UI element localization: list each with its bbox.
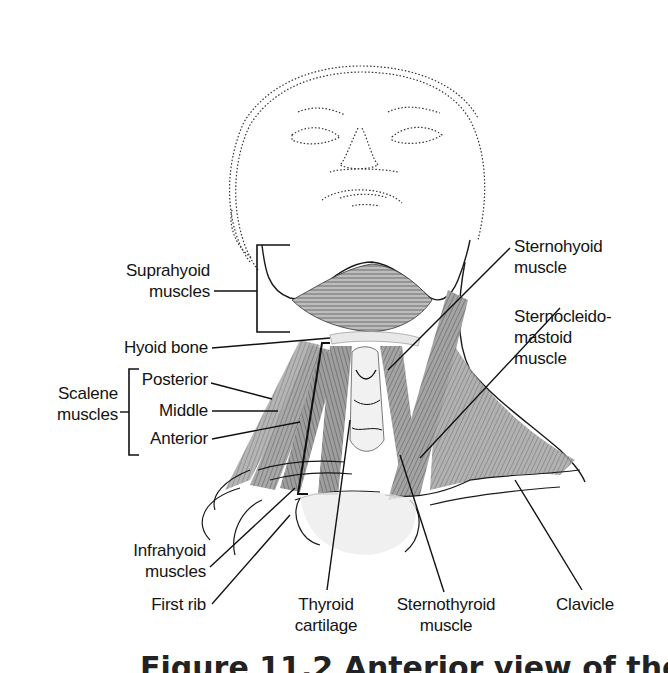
label-scalene-muscles: Scalene muscles xyxy=(20,383,118,425)
label-line: muscles xyxy=(90,561,206,582)
suprahyoid-muscle xyxy=(292,264,432,332)
label-text: Posterior xyxy=(142,370,208,389)
label-text: Hyoid bone xyxy=(124,338,208,357)
label-text: Anterior xyxy=(150,429,208,448)
label-sternocleidomastoid-muscle: Sternocleido- mastoid muscle xyxy=(514,306,654,369)
label-first-rib: First rib xyxy=(100,594,206,615)
label-scalene-anterior: Anterior xyxy=(120,428,208,449)
label-clavicle: Clavicle xyxy=(540,594,630,615)
label-line: Sternohyoid xyxy=(514,236,634,257)
label-line: muscle xyxy=(514,348,654,369)
sternum-shade xyxy=(300,492,416,555)
label-infrahyoid-muscles: Infrahyoid muscles xyxy=(90,540,206,582)
label-line: Infrahyoid xyxy=(90,540,206,561)
label-line: Sternothyroid xyxy=(386,594,506,615)
head-outline xyxy=(230,66,485,270)
label-line: cartilage xyxy=(276,615,376,636)
label-sternohyoid-muscle: Sternohyoid muscle xyxy=(514,236,634,278)
label-line: Scalene xyxy=(20,383,118,404)
anatomy-figure: Suprahyoid muscles Hyoid bone Scalene mu… xyxy=(0,0,668,673)
label-line: Suprahyoid xyxy=(90,260,210,281)
label-suprahyoid-muscles: Suprahyoid muscles xyxy=(90,260,210,302)
label-line: muscles xyxy=(90,281,210,302)
label-line: muscle xyxy=(514,257,634,278)
label-line: Thyroid xyxy=(276,594,376,615)
thyroid-cartilage-shape xyxy=(350,347,384,452)
label-thyroid-cartilage: Thyroid cartilage xyxy=(276,594,376,636)
label-text: Middle xyxy=(159,401,208,420)
label-line: mastoid xyxy=(514,327,654,348)
label-text: Clavicle xyxy=(556,595,614,614)
label-sternothyroid-muscle: Sternothyroid muscle xyxy=(386,594,506,636)
label-line: Sternocleido- xyxy=(514,306,654,327)
label-scalene-middle: Middle xyxy=(120,400,208,421)
suprahyoid-bracket xyxy=(257,245,290,332)
label-text: First rib xyxy=(151,595,206,614)
label-scalene-posterior: Posterior xyxy=(120,369,208,390)
label-line: muscles xyxy=(20,404,118,425)
label-line: muscle xyxy=(386,615,506,636)
figure-caption: Figure 11.2 Anterior view of the neck mu… xyxy=(140,650,668,673)
label-hyoid-bone: Hyoid bone xyxy=(70,337,208,358)
hyoid-bone xyxy=(330,332,420,346)
